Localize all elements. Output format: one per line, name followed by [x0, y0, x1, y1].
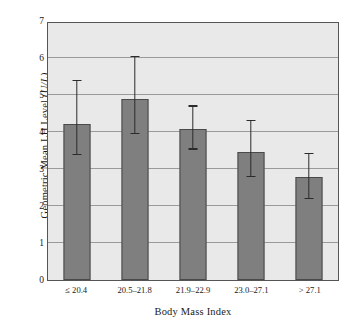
error-bar — [308, 154, 309, 199]
plot-area — [47, 22, 339, 281]
error-bar-cap-upper — [247, 120, 256, 121]
error-bar — [76, 81, 77, 155]
bar-group — [280, 23, 338, 280]
y-tick-label: 7 — [30, 17, 44, 27]
y-axis-ticks: 01234567 — [28, 0, 44, 332]
error-bar — [250, 121, 251, 177]
error-bar-cap-lower — [247, 176, 256, 177]
x-axis-ticks: ≤ 20.420.5–21.821.9–22.923.0–27.1> 27.1 — [47, 286, 339, 295]
bar[interactable] — [180, 129, 207, 280]
y-tick-label: 5 — [30, 91, 44, 101]
error-bar — [134, 57, 135, 134]
x-tick-label: 23.0–27.1 — [222, 286, 280, 295]
x-tick-label: 21.9–22.9 — [164, 286, 222, 295]
y-tick-label: 2 — [30, 202, 44, 212]
error-bar-cap-upper — [305, 153, 314, 154]
x-tick-label: > 27.1 — [281, 286, 339, 295]
bar-group — [48, 23, 106, 280]
y-tick-label: 3 — [30, 165, 44, 175]
y-tick-label: 6 — [30, 54, 44, 64]
y-tick-label: 1 — [30, 239, 44, 249]
x-tick-label: 20.5–21.8 — [105, 286, 163, 295]
bar-series — [48, 23, 338, 280]
chart-figure: Geometric Mean LH Level (U/L) 01234567 ≤… — [0, 0, 357, 332]
error-bar-cap-lower — [189, 148, 198, 149]
error-bar-cap-lower — [73, 154, 82, 155]
error-bar — [192, 107, 193, 150]
error-bar-cap-lower — [131, 133, 140, 134]
y-tick-label: 4 — [30, 128, 44, 138]
bar-group — [222, 23, 280, 280]
error-bar-cap-lower — [305, 198, 314, 199]
bar-group — [164, 23, 222, 280]
x-tick-label: ≤ 20.4 — [47, 286, 105, 295]
bar-group — [106, 23, 164, 280]
error-bar-cap-upper — [189, 105, 198, 106]
y-tick-label: 0 — [30, 276, 44, 286]
x-axis-title: Body Mass Index — [47, 306, 339, 317]
error-bar-cap-upper — [131, 56, 140, 57]
error-bar-cap-upper — [73, 80, 82, 81]
